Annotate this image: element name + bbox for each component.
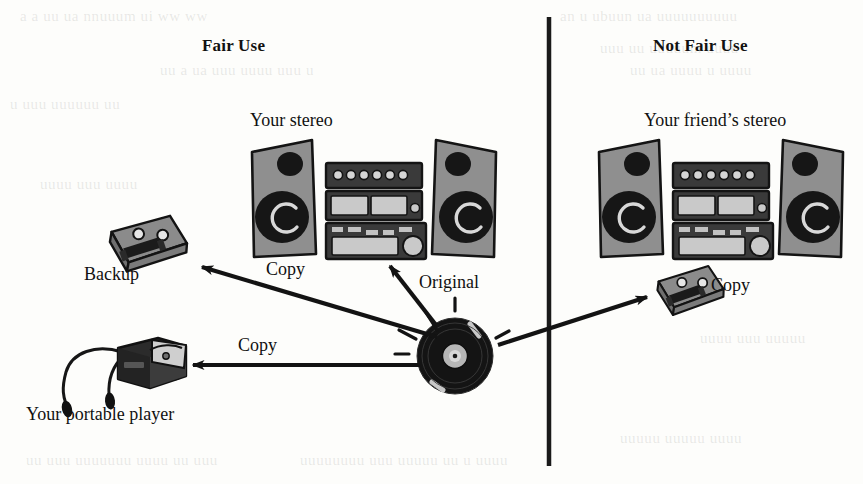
label-friend-copy: Copy (711, 275, 750, 296)
vinyl-record-graphic (395, 298, 509, 394)
column-title-fair-use: Fair Use (202, 36, 265, 56)
friend-stereo-graphic (599, 140, 843, 259)
figure-canvas: a a uu ua nnuuum ui ww ww an u ubuun ua … (0, 0, 863, 484)
arrow-record-to-backup (202, 267, 437, 337)
column-title-not-fair-use: Not Fair Use (653, 36, 748, 56)
label-portable-player: Your portable player (26, 404, 174, 425)
edge-label-original: Original (419, 272, 479, 293)
edge-label-copy-backup: Copy (266, 259, 305, 280)
label-backup: Backup (84, 264, 139, 285)
arrow-record-to-friend-copy (498, 297, 647, 345)
your-stereo-graphic (252, 140, 496, 259)
label-friend-stereo: Your friend’s stereo (644, 110, 786, 131)
edge-label-copy-portable: Copy (238, 335, 277, 356)
label-your-stereo: Your stereo (250, 110, 333, 131)
